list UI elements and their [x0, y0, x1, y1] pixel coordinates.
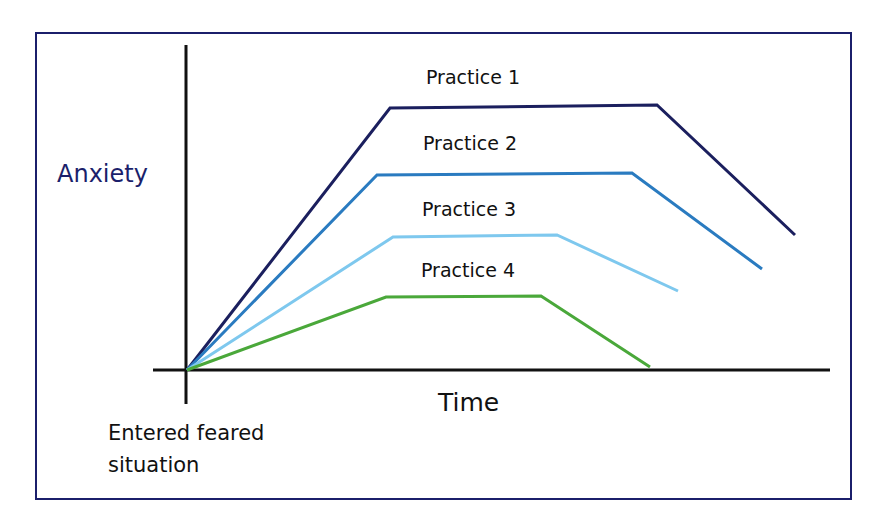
series-label-practice-1: Practice 1: [426, 66, 520, 88]
origin-annotation-line1: Entered feared: [108, 417, 308, 449]
series-label-practice-2: Practice 2: [423, 132, 517, 154]
x-axis-label: Time: [438, 388, 499, 417]
series-practice-4: [187, 296, 650, 370]
origin-annotation-line2: situation: [108, 449, 308, 481]
series-label-practice-4: Practice 4: [421, 259, 515, 281]
origin-annotation: Entered feared situation: [108, 417, 308, 481]
y-axis-label: Anxiety: [57, 160, 148, 188]
series-label-practice-3: Practice 3: [422, 198, 516, 220]
series-practice-3: [187, 235, 678, 370]
